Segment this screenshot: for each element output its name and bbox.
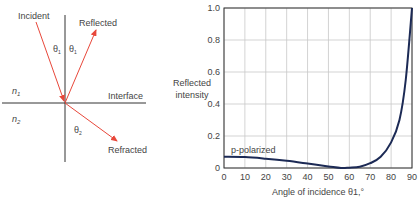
y-axis-label-line2: intensity bbox=[175, 90, 209, 100]
n1-label: n1 bbox=[12, 86, 20, 97]
theta1-left-label: θ1 bbox=[53, 44, 61, 55]
x-tick-label: 90 bbox=[407, 172, 417, 182]
p-polarized-label: p-polarized bbox=[231, 145, 276, 155]
y-tick-label: 0.8 bbox=[207, 35, 220, 45]
x-tick-labels: 0102030405060708090 bbox=[221, 172, 417, 182]
chart-gridlines bbox=[224, 8, 412, 168]
y-tick-label: 0 bbox=[215, 163, 220, 173]
y-tick-labels: 00.20.40.60.81.0 bbox=[207, 3, 220, 173]
reflected-ray bbox=[65, 30, 96, 103]
figure: Incident Reflected Interface Refracted n… bbox=[0, 0, 418, 203]
y-axis-label-line1: Reflected bbox=[173, 78, 211, 88]
x-tick-label: 60 bbox=[344, 172, 354, 182]
x-tick-label: 10 bbox=[240, 172, 250, 182]
reflected-label: Reflected bbox=[79, 18, 117, 28]
reflectance-chart: 00.20.40.60.81.0 0102030405060708090 p-p… bbox=[173, 3, 417, 197]
theta2-label: θ2 bbox=[74, 125, 82, 136]
x-tick-label: 50 bbox=[323, 172, 333, 182]
x-tick-label: 20 bbox=[261, 172, 271, 182]
y-tick-label: 0.4 bbox=[207, 99, 220, 109]
ray-diagram: Incident Reflected Interface Refracted n… bbox=[2, 11, 147, 162]
x-tick-label: 30 bbox=[282, 172, 292, 182]
y-tick-label: 1.0 bbox=[207, 3, 220, 13]
incident-label: Incident bbox=[18, 11, 50, 21]
incident-ray bbox=[36, 22, 64, 101]
y-tick-label: 0.6 bbox=[207, 67, 220, 77]
n2-label: n2 bbox=[12, 114, 21, 125]
x-tick-label: 70 bbox=[365, 172, 375, 182]
x-tick-label: 0 bbox=[221, 172, 226, 182]
theta1-right-label: θ1 bbox=[69, 44, 77, 55]
y-tick-label: 0.2 bbox=[207, 131, 220, 141]
refracted-label: Refracted bbox=[108, 145, 147, 155]
interface-label: Interface bbox=[108, 91, 143, 101]
x-tick-label: 80 bbox=[386, 172, 396, 182]
plot-frame bbox=[224, 8, 412, 168]
x-tick-label: 40 bbox=[303, 172, 313, 182]
refracted-ray bbox=[65, 103, 117, 141]
x-axis-label: Angle of incidence θ1,° bbox=[272, 187, 365, 197]
